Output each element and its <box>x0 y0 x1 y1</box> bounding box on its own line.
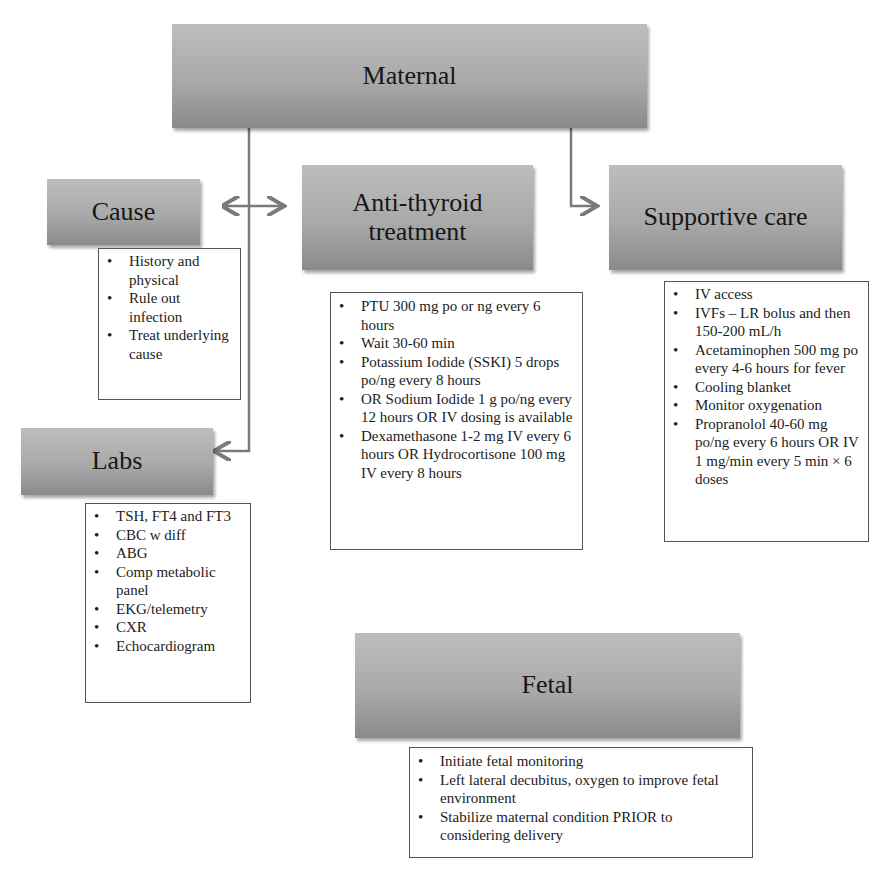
antithyroid-list-box: PTU 300 mg po or ng every 6 hours Wait 3… <box>330 292 583 550</box>
list-item: Comp metabolic panel <box>86 563 246 600</box>
supportive-list-box: IV access IVFs – LR bolus and then 150-2… <box>664 281 869 542</box>
list-item: Rule out infection <box>99 289 236 326</box>
maternal-to-supportive-connector <box>571 128 595 206</box>
list-item: CBC w diff <box>86 526 246 545</box>
maternal-header: Maternal <box>172 24 647 128</box>
list-item: Cooling blanket <box>665 378 862 397</box>
list-item: Dexamethasone 1-2 mg IV every 6 hours OR… <box>331 427 574 483</box>
list-item: Stabilize maternal condition PRIOR to co… <box>410 808 744 845</box>
list-item: CXR <box>86 618 246 637</box>
cause-header: Cause <box>47 179 200 245</box>
cause-label: Cause <box>92 198 156 227</box>
list-item: IV access <box>665 285 862 304</box>
maternal-label: Maternal <box>363 62 457 91</box>
fetal-header: Fetal <box>355 633 740 738</box>
fetal-label: Fetal <box>522 671 574 700</box>
supportive-list: IV access IVFs – LR bolus and then 150-2… <box>665 285 862 489</box>
list-item: TSH, FT4 and FT3 <box>86 507 246 526</box>
labs-list: TSH, FT4 and FT3 CBC w diff ABG Comp met… <box>86 507 246 655</box>
list-item: OR Sodium Iodide 1 g po/ng every 12 hour… <box>331 390 574 427</box>
fetal-list: Initiate fetal monitoring Left lateral d… <box>410 752 744 845</box>
supportive-header: Supportive care <box>609 165 842 270</box>
list-item: Acetaminophen 500 mg po every 4-6 hours … <box>665 341 862 378</box>
antithyroid-label-line1: Anti-thyroid <box>353 189 483 218</box>
antithyroid-header: Anti-thyroid treatment <box>302 165 533 270</box>
list-item: Echocardiogram <box>86 637 246 656</box>
list-item: Initiate fetal monitoring <box>410 752 744 771</box>
list-item: ABG <box>86 544 246 563</box>
list-item: Potassium Iodide (SSKI) 5 drops po/ng ev… <box>331 353 574 390</box>
list-item: Monitor oxygenation <box>665 396 862 415</box>
cause-list: History and physical Rule out infection … <box>99 252 236 363</box>
list-item: Wait 30-60 min <box>331 334 574 353</box>
list-item: EKG/telemetry <box>86 600 246 619</box>
fetal-list-box: Initiate fetal monitoring Left lateral d… <box>409 747 753 858</box>
list-item: Propranolol 40-60 mg po/ng every 6 hours… <box>665 415 862 489</box>
list-item: Left lateral decubitus, oxygen to improv… <box>410 771 744 808</box>
list-item: Treat underlying cause <box>99 326 236 363</box>
antithyroid-label-line2: treatment <box>368 218 466 247</box>
labs-list-box: TSH, FT4 and FT3 CBC w diff ABG Comp met… <box>85 503 251 703</box>
supportive-label: Supportive care <box>644 203 808 232</box>
list-item: History and physical <box>99 252 236 289</box>
list-item: IVFs – LR bolus and then 150-200 mL/h <box>665 304 862 341</box>
labs-label: Labs <box>92 447 143 476</box>
list-item: PTU 300 mg po or ng every 6 hours <box>331 297 574 334</box>
cause-list-box: History and physical Rule out infection … <box>98 248 241 400</box>
antithyroid-list: PTU 300 mg po or ng every 6 hours Wait 3… <box>331 297 574 482</box>
labs-header: Labs <box>21 428 213 495</box>
